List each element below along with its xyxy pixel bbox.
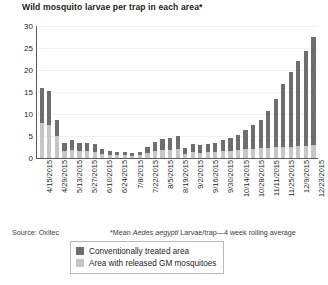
x-axis-tick-label: 11/25/2015 bbox=[287, 160, 296, 196]
bar-column bbox=[129, 26, 137, 158]
bar-column bbox=[151, 26, 159, 158]
bar-stack bbox=[274, 99, 278, 158]
x-axis-tick-label: 6/24/2015 bbox=[120, 160, 129, 193]
bar-stack bbox=[236, 135, 240, 158]
bar-segment-conventional bbox=[304, 51, 308, 146]
bar-segment-gm bbox=[176, 149, 180, 158]
bar-column bbox=[166, 26, 174, 158]
bar-column bbox=[227, 26, 235, 158]
bar-segment-conventional bbox=[251, 125, 255, 148]
bar-column bbox=[61, 26, 69, 158]
bar-segment-gm bbox=[228, 151, 232, 158]
bar-column bbox=[98, 26, 106, 158]
bar-stack bbox=[130, 153, 134, 158]
bar-segment-conventional bbox=[55, 120, 59, 136]
bar-column bbox=[249, 26, 257, 158]
bar-stack bbox=[108, 151, 112, 158]
bar-segment-conventional bbox=[93, 144, 97, 152]
bar-stack bbox=[40, 88, 44, 158]
x-axis-tick-label: 5/13/2015 bbox=[75, 160, 84, 193]
y-axis-tick-label: 5 bbox=[29, 132, 33, 141]
x-axis-tick-label: 10/28/2015 bbox=[257, 160, 266, 197]
bar-stack bbox=[145, 147, 149, 158]
bar-segment-gm bbox=[160, 150, 164, 158]
bar-segment-gm bbox=[93, 152, 97, 158]
bar-segment-conventional bbox=[153, 142, 157, 151]
bar-column bbox=[144, 26, 152, 158]
bar-segment-conventional bbox=[40, 88, 44, 123]
bar-column bbox=[189, 26, 197, 158]
bar-segment-gm bbox=[145, 153, 149, 158]
bar-column bbox=[287, 26, 295, 158]
bar-column bbox=[83, 26, 91, 158]
bar-stack bbox=[160, 139, 164, 158]
bar-stack bbox=[77, 143, 81, 158]
chart-figure: Wild mosquito larvae per trap in each ar… bbox=[0, 0, 328, 285]
bar-segment-gm bbox=[130, 156, 134, 158]
x-axis-tick-label: 4/29/2015 bbox=[60, 160, 69, 193]
y-axis-tick-label: 20 bbox=[24, 66, 33, 75]
x-axis-tick-label: 12/9/2015 bbox=[302, 160, 311, 193]
bar-column bbox=[257, 26, 265, 158]
bar-segment-conventional bbox=[296, 61, 300, 146]
bar-segment-conventional bbox=[228, 138, 232, 151]
footnote-prefix: *Mean bbox=[110, 228, 133, 237]
bar-stack bbox=[266, 111, 270, 158]
bar-column bbox=[302, 26, 310, 158]
bar-segment-gm bbox=[221, 151, 225, 158]
bar-stack bbox=[228, 138, 232, 158]
bar-segment-gm bbox=[168, 150, 172, 158]
y-axis-line bbox=[36, 26, 37, 159]
bar-stack bbox=[221, 140, 225, 158]
bar-segment-conventional bbox=[191, 144, 195, 152]
bar-stack bbox=[296, 61, 300, 158]
x-axis-tick-label: 6/10/2015 bbox=[105, 160, 114, 193]
bar-column bbox=[196, 26, 204, 158]
bar-series-group bbox=[38, 26, 317, 158]
bar-stack bbox=[311, 37, 315, 158]
y-axis-tick-label: 30 bbox=[24, 22, 33, 31]
legend-item-gm: Area with released GM mosquitoes bbox=[76, 257, 216, 269]
y-axis-tick-label: 15 bbox=[24, 88, 33, 97]
x-axis-line bbox=[36, 158, 318, 159]
bar-segment-gm bbox=[108, 155, 112, 158]
bar-segment-gm bbox=[70, 150, 74, 158]
bar-column bbox=[113, 26, 121, 158]
bar-segment-gm bbox=[115, 155, 119, 158]
bar-segment-gm bbox=[183, 154, 187, 158]
bar-segment-conventional bbox=[281, 84, 285, 147]
bar-segment-gm bbox=[191, 152, 195, 158]
bar-segment-gm bbox=[153, 151, 157, 158]
bar-column bbox=[242, 26, 250, 158]
footnote-species: Aedes aegypti bbox=[133, 228, 179, 237]
plot-area: 051015202530 bbox=[18, 26, 318, 161]
bar-stack bbox=[206, 144, 210, 158]
bar-segment-gm bbox=[304, 146, 308, 158]
bar-segment-gm bbox=[296, 146, 300, 158]
bar-segment-gm bbox=[274, 147, 278, 158]
bar-segment-conventional bbox=[213, 143, 217, 152]
bar-stack bbox=[191, 144, 195, 158]
bar-column bbox=[121, 26, 129, 158]
legend-item-conventional: Conventionally treated area bbox=[76, 245, 216, 257]
bar-stack bbox=[259, 120, 263, 158]
legend-swatch-icon bbox=[76, 259, 84, 267]
bar-stack bbox=[62, 143, 66, 158]
bar-segment-conventional bbox=[62, 143, 66, 151]
footnote: *Mean Aedes aegypti Larvae/trap—4 week r… bbox=[110, 228, 296, 237]
bar-stack bbox=[85, 143, 89, 158]
x-axis-tick-labels: 4/15/20154/29/20155/13/20155/27/20156/10… bbox=[38, 160, 320, 212]
bar-stack bbox=[55, 120, 59, 158]
bar-segment-conventional bbox=[145, 147, 149, 154]
bar-segment-gm bbox=[123, 155, 127, 158]
bar-column bbox=[204, 26, 212, 158]
bar-stack bbox=[138, 152, 142, 158]
bar-stack bbox=[183, 148, 187, 158]
bar-segment-conventional bbox=[259, 120, 263, 148]
bar-segment-conventional bbox=[176, 136, 180, 149]
bar-stack bbox=[213, 143, 217, 158]
bar-segment-gm bbox=[100, 154, 104, 158]
bar-segment-conventional bbox=[221, 140, 225, 151]
bar-segment-conventional bbox=[274, 99, 278, 147]
bar-column bbox=[76, 26, 84, 158]
